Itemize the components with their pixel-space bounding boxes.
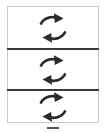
refresh-circular-arrows-icon[interactable] — [32, 12, 74, 44]
bottom-dash-marker — [47, 127, 59, 129]
refresh-cell-3[interactable] — [7, 91, 99, 123]
refresh-cell-2[interactable] — [7, 50, 99, 89]
refresh-icon-stack-panel — [7, 6, 99, 119]
refresh-circular-arrows-icon[interactable] — [32, 54, 74, 86]
refresh-circular-arrows-icon[interactable] — [32, 91, 74, 123]
refresh-cell-1[interactable] — [7, 6, 99, 48]
